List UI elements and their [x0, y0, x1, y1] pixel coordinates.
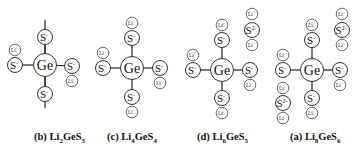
- formula-part: GeS: [318, 131, 337, 142]
- lithium-ion: Li+: [244, 79, 256, 91]
- caption-label: (a): [290, 131, 305, 142]
- sulfur-ion: S-: [333, 63, 348, 78]
- lithium-ion: Li+: [216, 19, 228, 31]
- sulfur-ion: S-: [215, 33, 230, 48]
- sulfur-ion: S-: [96, 61, 111, 76]
- lithium-ion: Li+: [336, 8, 348, 20]
- sulfur-ion: S-: [276, 63, 291, 78]
- ge-atom: Ge: [211, 59, 234, 82]
- panel-d: GeLi+S-Li+S-S-Li+S-Li+Li+S2-Li+: [186, 8, 260, 119]
- svg-text:Ge: Ge: [304, 63, 320, 78]
- caption-li6ges5: (d) Li6GeS5: [197, 131, 248, 145]
- lithium-ion: Li+: [187, 49, 199, 61]
- ge-atom: Ge: [34, 54, 57, 77]
- caption-label: (c): [107, 131, 121, 142]
- lithium-ion: Li+: [66, 75, 78, 87]
- formula-part: GeS: [63, 131, 82, 142]
- svg-text:Ge: Ge: [37, 58, 53, 73]
- lithium-ion: Li+: [97, 47, 109, 59]
- lithium-ion: Li+: [336, 39, 348, 51]
- lithium-ion: Li+: [277, 82, 289, 94]
- formula-subscript: 4: [153, 137, 157, 145]
- lithium-ion: Li+: [306, 19, 318, 31]
- caption-li4ges4: (c) Li4GeS4: [107, 131, 157, 145]
- lithium-ion: Li+: [154, 77, 166, 89]
- caption-li8ges6: (a) Li8GeS6: [290, 131, 340, 145]
- sulfur-ion: S-: [125, 90, 140, 105]
- sulfur-ion: S-: [8, 58, 23, 73]
- lithium-ion: Li+: [126, 106, 138, 118]
- caption-label: (d): [197, 131, 212, 142]
- panel-c: GeLi+S-Li+S-S-Li+S-Li+: [96, 17, 168, 118]
- sulfur-ion: S-: [243, 63, 258, 78]
- lithium-ion: Li+: [216, 107, 228, 119]
- lithium-ion: Li+: [9, 44, 21, 56]
- sulfur-ion: S-: [153, 61, 168, 76]
- svg-text:Ge: Ge: [214, 63, 230, 78]
- sulfur-ion: S2-: [335, 23, 350, 38]
- formula-part: GeS: [135, 131, 154, 142]
- lithium-ion: Li+: [246, 8, 258, 20]
- svg-text:Ge: Ge: [124, 61, 140, 76]
- formula-part: Li: [49, 131, 59, 142]
- sulfur-ion: S-: [38, 87, 53, 102]
- lithium-ion: Li+: [277, 112, 289, 124]
- sulfur-ion: S2-: [245, 23, 260, 38]
- formula-part: Li: [305, 131, 315, 142]
- sulfur-ion: S-: [38, 30, 53, 45]
- lithium-ion: Li+: [334, 79, 346, 91]
- lithium-ion: Li+: [277, 49, 289, 61]
- formula-part: Li: [212, 131, 222, 142]
- sulfur-ion: S-: [65, 59, 80, 74]
- sulfur-ion: S-: [305, 91, 320, 106]
- sulfur-ion: S-: [186, 63, 201, 78]
- caption-label: (b): [34, 131, 49, 142]
- formula-part: GeS: [226, 131, 245, 142]
- sulfur-ion: S-: [305, 33, 320, 48]
- ge-atom: Ge: [301, 59, 324, 82]
- formula-subscript: 3: [82, 137, 86, 145]
- lithium-ion: Li+: [246, 39, 258, 51]
- formula-part: Li: [121, 131, 131, 142]
- sulfur-ion: S2-: [276, 96, 291, 111]
- panel-b: GeS-S-Li+S-Li+S-: [8, 20, 80, 108]
- caption-li2ges3: (b) Li2GeS3: [34, 131, 85, 145]
- lithium-ion: Li+: [126, 17, 138, 29]
- panel-a: GeLi+S-Li+S-S-Li+S-Li+Li+S2-Li+Li+S2-Li+: [276, 8, 350, 124]
- sulfur-ion: S-: [215, 91, 230, 106]
- sulfur-ion: S-: [125, 31, 140, 46]
- formula-subscript: 6: [337, 137, 341, 145]
- ge-atom: Ge: [121, 57, 144, 80]
- lithium-ion: Li+: [306, 107, 318, 119]
- formula-subscript: 5: [245, 137, 249, 145]
